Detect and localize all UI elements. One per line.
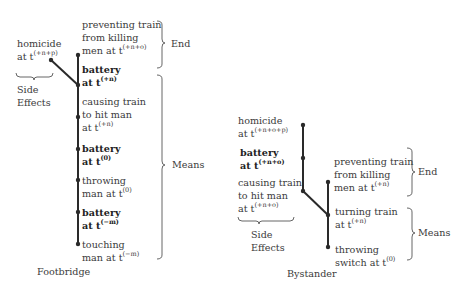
node-text: battery bbox=[82, 143, 121, 154]
node-text: battery bbox=[82, 64, 121, 75]
node-text: preventing train bbox=[82, 18, 161, 31]
bystander-nodes bbox=[301, 123, 330, 249]
bystander-side-effects-label: Side Effects bbox=[251, 228, 291, 254]
node-text: at t(+n+o) bbox=[240, 160, 285, 171]
node-text: at t(+n+p) bbox=[17, 50, 61, 63]
bystander-caption: Bystander bbox=[287, 268, 337, 279]
bystander-node-throwing-switch: throwing switch at t(0) bbox=[335, 243, 395, 269]
footbridge-caption: Footbridge bbox=[37, 266, 90, 277]
node-text: at t(−m) bbox=[82, 220, 119, 231]
footbridge-node-preventing-train: preventing train from killing men at t(+… bbox=[82, 18, 161, 57]
footbridge-node-battery-n: battery at t(+n) bbox=[82, 63, 121, 89]
node-text: at t(+n) bbox=[82, 77, 117, 88]
node-text: switch at t(0) bbox=[335, 256, 395, 269]
bystander-node-turning-train: turning train at t(+n) bbox=[335, 205, 398, 231]
node-text: men at t(+n+o) bbox=[82, 44, 161, 57]
footbridge-node-causing-train: causing train to hit man at t(+n) bbox=[82, 95, 146, 134]
node-text: battery bbox=[82, 207, 121, 218]
node-text: man at t(−m) bbox=[82, 251, 139, 264]
footbridge-node-touching-man: touching man at t(−m) bbox=[82, 238, 139, 264]
node-text: at t(+n+o) bbox=[238, 202, 302, 215]
footbridge-side-effect-homicide: homicide at t(+n+p) bbox=[17, 37, 61, 63]
footbridge-end-label: End bbox=[171, 38, 190, 49]
node-text: to hit man bbox=[82, 108, 146, 121]
footbridge-side-effects-brace bbox=[16, 73, 53, 80]
node-text: turning train bbox=[335, 205, 398, 218]
bystander-side-homicide: homicide at t(+n+o+p) bbox=[238, 114, 288, 140]
footbridge-node-battery-0: battery at t(0) bbox=[82, 142, 121, 168]
bystander-side-causing-train: causing train to hit man at t(+n+o) bbox=[238, 176, 302, 215]
bystander-means-brace bbox=[407, 208, 415, 260]
node-text: at t(+n) bbox=[335, 218, 398, 231]
bystander-side-battery: battery at t(+n+o) bbox=[240, 146, 285, 172]
bystander-end-label: End bbox=[418, 166, 437, 177]
bystander-chain-line bbox=[303, 125, 328, 247]
bystander-means-label: Means bbox=[418, 227, 450, 238]
footbridge-node-throwing-man: throwing man at t(0) bbox=[82, 174, 132, 200]
footbridge-means-label: Means bbox=[172, 159, 204, 170]
footbridge-side-effects-label: Side Effects bbox=[17, 83, 57, 109]
node-text: at t(+n) bbox=[82, 121, 146, 134]
node-text: men at t(+n) bbox=[334, 181, 413, 194]
node-text: causing train bbox=[82, 95, 146, 108]
bystander-node-preventing-train: preventing train from killing men at t(+… bbox=[334, 155, 413, 194]
bystander-side-effects-brace bbox=[238, 217, 294, 224]
node-text: at t(+n+o+p) bbox=[238, 127, 288, 140]
node-text: man at t(0) bbox=[82, 187, 132, 200]
footbridge-means-brace bbox=[157, 75, 165, 259]
node-text: at t(0) bbox=[82, 156, 111, 167]
node-text: preventing train bbox=[334, 155, 413, 168]
footbridge-node-battery-m: battery at t(−m) bbox=[82, 206, 121, 232]
node-text: battery bbox=[240, 147, 279, 158]
node-text: causing train bbox=[238, 176, 302, 189]
